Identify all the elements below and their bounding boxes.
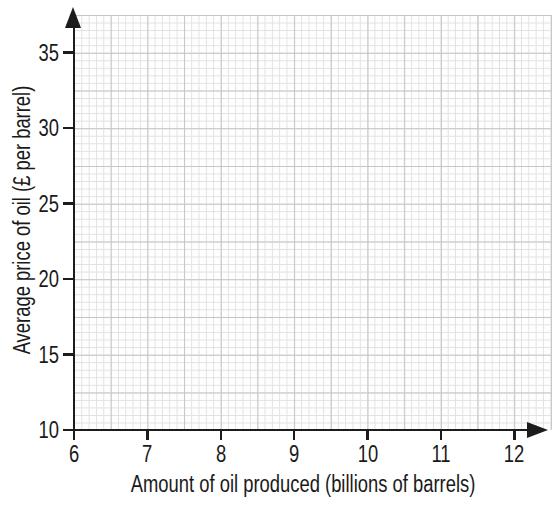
y-tick-mark [63, 278, 74, 281]
y-tick-label: 10 [21, 418, 59, 442]
x-tick-label: 6 [50, 442, 98, 466]
x-tick-label: 7 [123, 442, 171, 466]
x-tick-mark [220, 431, 223, 440]
x-tick-label: 12 [490, 442, 538, 466]
x-tick-label: 11 [417, 442, 465, 466]
y-axis-arrow-icon [65, 7, 81, 28]
x-tick-label: 10 [344, 442, 392, 466]
y-tick-mark [63, 202, 74, 205]
blank-oil-price-graph: 6789101112 101520253035 Average price of… [0, 0, 552, 509]
graph-paper-grid [74, 15, 552, 430]
x-tick-mark [293, 431, 296, 440]
x-tick-label: 9 [270, 442, 318, 466]
y-tick-mark [63, 51, 74, 54]
x-tick-mark [146, 431, 149, 440]
x-tick-mark [73, 431, 76, 440]
y-tick-mark [63, 127, 74, 130]
x-tick-mark [513, 431, 516, 440]
y-axis [73, 22, 76, 431]
x-tick-mark [440, 431, 443, 440]
x-axis-arrow-icon [527, 422, 548, 438]
y-tick-mark [63, 429, 74, 432]
y-axis-title: Average price of oil (£ per barrel) [9, 86, 36, 355]
x-axis [73, 429, 535, 432]
y-tick-mark [63, 353, 74, 356]
x-axis-title: Amount of oil produced (billions of barr… [111, 471, 495, 498]
y-tick-label: 35 [21, 41, 59, 65]
x-tick-label: 8 [197, 442, 245, 466]
x-tick-mark [366, 431, 369, 440]
